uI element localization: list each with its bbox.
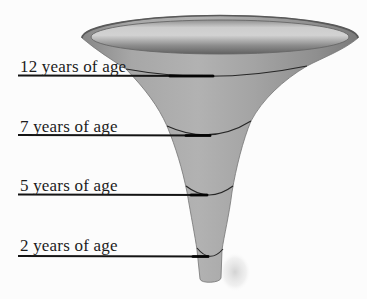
stage-label-2-years: 2 years of age bbox=[20, 237, 118, 254]
funnel-opening bbox=[91, 20, 349, 54]
stage-label-7-years: 7 years of age bbox=[20, 118, 118, 135]
funnel-body bbox=[82, 16, 358, 283]
leader-line-2-years bbox=[18, 256, 209, 257]
stage-label-12-years: 12 years of age bbox=[20, 58, 126, 75]
stage-label-5-years: 5 years of age bbox=[20, 177, 118, 194]
stem-shadow bbox=[219, 252, 251, 292]
funnel-diagram: 12 years of age 7 years of age 5 years o… bbox=[0, 0, 367, 299]
